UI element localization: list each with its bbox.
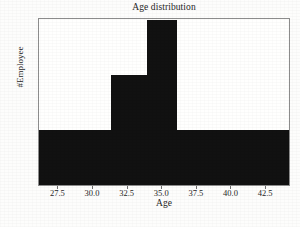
- x-tick-label: 37.5: [178, 188, 214, 198]
- x-tick-label: 42.5: [247, 188, 283, 198]
- plot-area: [38, 18, 290, 186]
- x-tick-label: 32.5: [109, 188, 145, 198]
- chart-title: Age distribution: [38, 2, 290, 12]
- x-axis-label: Age: [38, 198, 290, 208]
- y-tick-mark: [38, 132, 39, 133]
- histogram-bar: [213, 130, 249, 185]
- figure-canvas: Age distribution #Employee Age 00.51.01.…: [0, 0, 300, 227]
- histogram-bar: [111, 75, 147, 185]
- histogram-bar: [39, 130, 75, 185]
- y-axis-label: #Employee: [15, 21, 25, 113]
- y-tick-mark: [38, 22, 39, 23]
- x-tick-label: 27.5: [39, 188, 75, 198]
- x-tick-label: 30.0: [74, 188, 110, 198]
- y-tick-mark: [38, 49, 39, 50]
- histogram-bar: [249, 130, 290, 185]
- histogram-bar: [147, 20, 177, 185]
- histogram-bar: [75, 130, 111, 185]
- x-tick-label: 35.0: [143, 188, 179, 198]
- y-tick-mark: [38, 77, 39, 78]
- y-tick-mark: [38, 159, 39, 160]
- x-tick-label: 40.0: [212, 188, 248, 198]
- y-tick-mark: [38, 104, 39, 105]
- histogram-bar: [177, 130, 213, 185]
